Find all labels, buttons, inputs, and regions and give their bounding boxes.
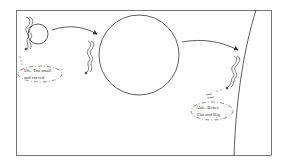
diagram-canvas: Uh.. Too small and curved Ahh.. Better F… <box>0 0 283 164</box>
large-sphere <box>99 15 179 95</box>
caption-2-line2: Flat and Big <box>197 112 220 117</box>
speech-bubble-1: Uh.. Too small and curved <box>18 56 62 82</box>
worm-cell-1 <box>25 17 33 50</box>
arrow-2 <box>182 40 238 50</box>
flat-surface-curve <box>234 10 256 156</box>
frame-border <box>17 11 272 156</box>
caption-2-line1: Ahh.. Better <box>196 105 219 110</box>
worm-cell-2 <box>85 41 94 74</box>
arrow-1 <box>52 27 97 34</box>
worm-cell-3 <box>226 56 240 89</box>
speech-bubble-2: Ahh.. Better Flat and Big <box>191 89 233 120</box>
caption-1-line2: and curved <box>24 75 45 80</box>
caption-1-line1: Uh.. Too small <box>24 68 52 73</box>
